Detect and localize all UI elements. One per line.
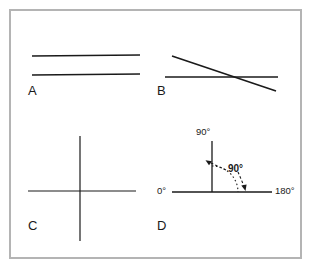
figure-root: 90° 0° 180° 90° A B C D bbox=[0, 0, 315, 270]
panel-label-b: B bbox=[157, 84, 166, 97]
panel-label-d: D bbox=[157, 219, 166, 232]
panel-d-label-0: 0° bbox=[157, 186, 166, 196]
panel-d-label-90-top: 90° bbox=[196, 127, 210, 137]
figure-border bbox=[9, 9, 302, 259]
panel-d-label-angle-90: 90° bbox=[228, 164, 243, 174]
panel-label-c: C bbox=[28, 219, 37, 232]
panel-d-label-180: 180° bbox=[275, 186, 295, 196]
panel-label-a: A bbox=[28, 84, 37, 97]
